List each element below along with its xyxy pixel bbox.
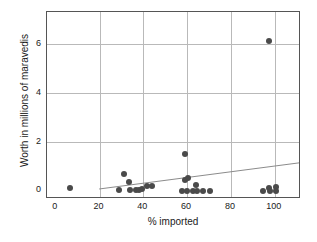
data-point (185, 175, 191, 181)
y-tick-4: 4 (36, 87, 41, 97)
trendline (47, 12, 299, 197)
data-point (126, 179, 132, 185)
data-point (200, 188, 206, 194)
data-point (182, 151, 188, 157)
x-tick-100: 100 (266, 201, 281, 211)
x-tick-60: 60 (181, 201, 191, 211)
y-tick-6: 6 (36, 38, 41, 48)
data-point (273, 188, 279, 194)
data-point (266, 38, 272, 44)
scatter-plot-figure: 020406080100 0246 % imported Worth in mi… (0, 0, 317, 242)
x-tick-0: 0 (52, 201, 57, 211)
x-tick-20: 20 (94, 201, 104, 211)
y-axis-title: Worth in millions of maravedis (19, 1, 30, 201)
y-tick-0: 0 (36, 184, 41, 194)
data-point (193, 182, 199, 188)
x-axis-title: % imported (46, 216, 300, 227)
y-tick-2: 2 (36, 136, 41, 146)
data-point (121, 171, 127, 177)
plot-area (46, 11, 300, 198)
x-tick-40: 40 (137, 201, 147, 211)
data-point (260, 188, 266, 194)
x-tick-80: 80 (225, 201, 235, 211)
